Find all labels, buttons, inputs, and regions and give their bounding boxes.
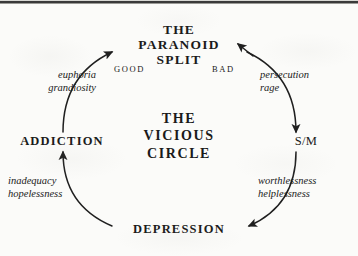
affect-bottom-left-line2: hopelessness (8, 187, 98, 200)
polarity-label-bad: BAD (212, 64, 235, 74)
node-paranoid-split-line1: THE (0, 22, 358, 37)
affect-bottom-right-line2: helplessness (258, 187, 352, 200)
affect-label-top-left: euphoria grandiosity (10, 68, 96, 94)
node-paranoid-split-line3: SPLIT (0, 52, 358, 67)
affect-label-bottom-right: worthlessness helplessness (258, 174, 352, 200)
center-title-line3: CIRCLE (0, 145, 358, 162)
affect-bottom-left-line1: inadequacy (8, 174, 98, 187)
center-title-line1: THE (0, 110, 358, 127)
polarity-label-good: GOOD (114, 64, 145, 74)
center-title: THE VICIOUS CIRCLE (0, 110, 358, 162)
affect-label-top-right: persecution rage (260, 68, 348, 94)
vicious-circle-diagram: THE PARANOID SPLIT GOOD BAD euphoria gra… (0, 0, 358, 256)
affect-top-left-line1: euphoria (10, 68, 96, 81)
affect-label-bottom-left: inadequacy hopelessness (8, 174, 98, 200)
node-depression: DEPRESSION (0, 222, 358, 236)
center-title-line2: VICIOUS (0, 127, 358, 144)
affect-top-left-line2: grandiosity (10, 81, 96, 94)
affect-top-right-line2: rage (260, 81, 348, 94)
page-top-rule (0, 0, 358, 4)
node-paranoid-split-line2: PARANOID (0, 37, 358, 52)
affect-bottom-right-line1: worthlessness (258, 174, 352, 187)
node-paranoid-split: THE PARANOID SPLIT (0, 22, 358, 67)
affect-top-right-line1: persecution (260, 68, 348, 81)
